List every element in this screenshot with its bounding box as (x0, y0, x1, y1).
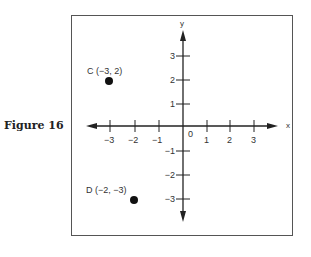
x-tick-label: 1 (204, 135, 209, 145)
point-d: D (−2, −3) (86, 185, 138, 204)
point-c: C (−3, 2) (87, 66, 122, 85)
y-axis-up-arrow-icon (180, 30, 186, 41)
x-tick-label: −3 (104, 135, 114, 145)
x-axis-right-arrow-icon (267, 123, 278, 129)
point-c-label: C (−3, 2) (87, 66, 122, 76)
x-tick-label: 3 (251, 135, 256, 145)
x-tick-label: 2 (227, 135, 232, 145)
coordinate-plane: x y −3 −2 −1 1 2 3 0 3 2 1 −1 −2 (0, 0, 311, 257)
x-axis-label: x (286, 121, 290, 130)
x-tick-labels: −3 −2 −1 1 2 3 0 (104, 129, 256, 145)
x-tick-label: −1 (152, 135, 162, 145)
y-axis-label: y (180, 19, 184, 28)
y-tick-label: −1 (165, 146, 175, 156)
y-tick-label: 1 (170, 99, 175, 109)
point-c-marker (105, 77, 113, 85)
y-tick-label: −2 (165, 170, 175, 180)
x-tick-label: −2 (128, 135, 138, 145)
y-tick-label: −3 (165, 194, 175, 204)
y-axis-down-arrow-icon (180, 211, 186, 222)
y-axis: y (180, 19, 186, 222)
y-tick-label: 3 (170, 51, 175, 61)
point-d-label: D (−2, −3) (86, 185, 127, 195)
origin-label: 0 (188, 129, 193, 139)
y-tick-labels: 3 2 1 −1 −2 −3 (165, 51, 175, 204)
y-tick-label: 2 (170, 75, 175, 85)
point-d-marker (130, 196, 138, 204)
x-axis-left-arrow-icon (86, 123, 97, 129)
